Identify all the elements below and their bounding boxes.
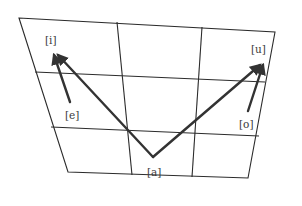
arrow-e-to-i <box>54 55 70 102</box>
vertical-grid-line-left <box>117 22 132 175</box>
label-e: [e] <box>65 109 79 121</box>
label-u: [u] <box>251 43 266 55</box>
label-i: [i] <box>45 34 57 46</box>
label-a: [a] <box>147 166 161 178</box>
vertical-grid-line-right <box>192 27 202 177</box>
horizontal-grid-line-upper <box>35 72 265 82</box>
vowel-chart-diagram: [i] [u] [e] [o] [a] <box>0 0 302 206</box>
outer-quadrilateral <box>19 18 275 178</box>
label-o: [o] <box>239 118 254 130</box>
horizontal-grid-line-lower <box>51 127 259 136</box>
arrow-a-to-u <box>153 65 260 157</box>
arrow-a-to-i <box>58 55 153 157</box>
